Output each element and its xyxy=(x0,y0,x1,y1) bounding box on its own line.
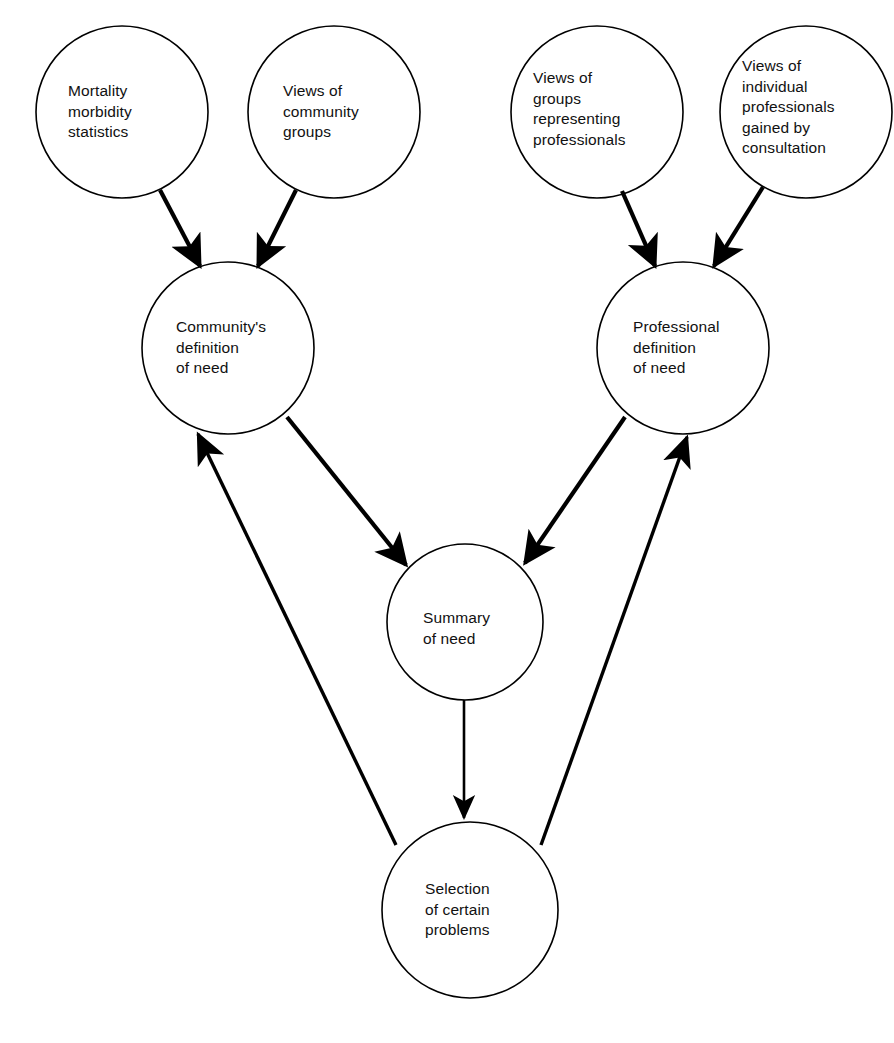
node-circle-summary-of-need xyxy=(387,544,543,700)
edge-professional-to-summary xyxy=(525,417,625,563)
edge-community-groups-to-community xyxy=(258,190,296,266)
edge-selection-to-professional xyxy=(541,437,687,845)
diagram-svg xyxy=(0,0,894,1043)
node-circle-communitys-definition-of-need xyxy=(142,262,314,434)
node-circle-mortality-morbidity-statistics xyxy=(36,26,208,198)
edge-stats-to-community xyxy=(160,190,200,266)
node-circle-views-of-individual-professionals xyxy=(720,26,892,198)
diagram-canvas: Mortality morbidity statistics Views of … xyxy=(0,0,894,1043)
node-circle-views-of-community-groups xyxy=(248,26,420,198)
edge-prof-groups-to-professional xyxy=(622,191,655,266)
edge-individual-prof-to-professional xyxy=(714,187,763,266)
node-circle-professional-definition-of-need xyxy=(597,262,769,434)
edge-community-to-summary xyxy=(287,417,406,565)
node-circle-views-of-groups-representing-professionals xyxy=(511,26,683,198)
node-circle-selection-of-certain-problems xyxy=(382,822,558,998)
edge-selection-to-community xyxy=(198,434,396,845)
